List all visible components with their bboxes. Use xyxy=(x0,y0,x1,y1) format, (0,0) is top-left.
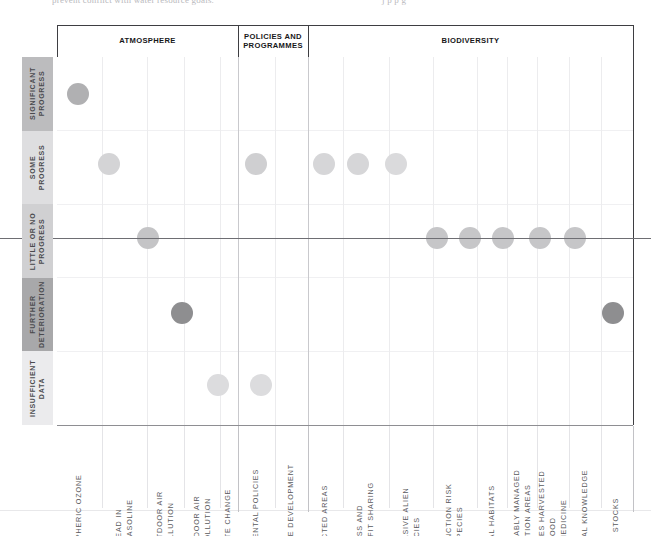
column-label-text: ACCESS ANDBENEFIT SHARING xyxy=(355,482,377,536)
column-label-lead-in-gasoline: LEAD INGASOLINE xyxy=(102,426,147,534)
column-label-species-harvested-for-food-and-medicine: SPECIES HARVESTEDFOR FOODAND MEDICINE xyxy=(537,426,569,534)
col-gridline-1 xyxy=(102,57,103,425)
data-point-sustainable-development xyxy=(250,374,272,396)
row-label-axis: SIGNIFICANTPROGRESSSOMEPROGRESSLITTLE OR… xyxy=(22,57,53,425)
column-label-sustainably-managed-production-areas: SUSTAINABLY MANAGEDPRODUCTION AREAS xyxy=(507,426,537,534)
header-group-atmosphere: ATMOSPHERE xyxy=(57,25,238,57)
row-label-significant-progress: SIGNIFICANTPROGRESS xyxy=(22,57,53,131)
data-point-invasive-alien-species xyxy=(385,153,407,175)
column-label-text: INVASIVE ALIENSPECIES xyxy=(400,488,422,536)
column-label-text: SUSTAINABLE DEVELOPMENT xyxy=(286,464,297,536)
col-gridline-4 xyxy=(220,57,221,425)
row-label-further-deterioration: FURTHERDETERIORATION xyxy=(22,278,53,352)
data-point-fish-stocks xyxy=(602,302,624,324)
column-label-text: NATURAL HABITATS xyxy=(487,485,498,536)
row-label-little-or-no-progress: LITTLE OR NOPROGRESS xyxy=(22,204,53,278)
col-gridline-5 xyxy=(275,57,276,425)
header-group-policies: POLICIES AND PROGRAMMES xyxy=(238,25,308,57)
row-label-text: SIGNIFICANTPROGRESS xyxy=(28,67,47,120)
column-label-protected-areas: PROTECTED AREAS xyxy=(308,426,343,534)
col-group-line-policies-end xyxy=(308,57,309,425)
data-point-indoor-air-pollution xyxy=(171,302,193,324)
column-label-text: SUSTAINABLY MANAGEDPRODUCTION AREAS xyxy=(511,470,533,536)
col-gridline-7 xyxy=(389,57,390,425)
row-label-text: SOMEPROGRESS xyxy=(28,145,47,191)
header-band: ATMOSPHERE POLICIES AND PROGRAMMES BIODI… xyxy=(57,25,633,57)
column-label-text: ENVIRONMENTAL POLICIES xyxy=(251,469,262,536)
row-label-text: LITTLE OR NOPROGRESS xyxy=(28,212,47,270)
column-label-traditional-knowledge: TRADITIONAL KNOWLEDGE xyxy=(569,426,601,534)
column-label-text: OUTDOOR AIRPOLLUTION xyxy=(155,491,177,536)
column-label-text: FISH STOCKS xyxy=(612,498,623,536)
plot-area xyxy=(57,57,633,425)
column-label-climate-change: CLIMATE CHANGE xyxy=(220,426,238,534)
row-label-text: FURTHERDETERIORATION xyxy=(28,281,47,348)
row-label-some-progress: SOMEPROGRESS xyxy=(22,131,53,205)
column-label-axis: STRATOSPHERIC OZONELEAD INGASOLINEOUTDOO… xyxy=(57,426,633,536)
column-label-text: PROTECTED AREAS xyxy=(320,485,331,536)
row-gridline-1 xyxy=(57,130,633,131)
column-label-sustainable-development: SUSTAINABLE DEVELOPMENT xyxy=(275,426,308,534)
column-label-fish-stocks: FISH STOCKS xyxy=(601,426,633,534)
data-point-stratospheric-ozone xyxy=(67,83,89,105)
col-gridline-6 xyxy=(343,57,344,425)
column-label-text: TRADITIONAL KNOWLEDGE xyxy=(580,470,591,536)
column-label-stratospheric-ozone: STRATOSPHERIC OZONE xyxy=(57,426,102,534)
infographic-root: prevent conflict with water resource goa… xyxy=(0,0,651,536)
plot-frame-right-edge xyxy=(633,25,634,425)
column-label-text: EXTINCTION RISKOF SPECIES xyxy=(444,484,466,536)
data-point-environmental-policies xyxy=(245,153,267,175)
data-point-lead-in-gasoline xyxy=(98,153,120,175)
baseline-divider xyxy=(0,238,651,239)
column-label-invasive-alien-species: INVASIVE ALIENSPECIES xyxy=(389,426,433,534)
data-point-protected-areas xyxy=(313,153,335,175)
row-gridline-2 xyxy=(57,204,633,205)
column-label-text: INDOOR AIRPOLLUTION xyxy=(191,496,213,536)
row-label-insufficient-data: INSUFFICIENTDATA xyxy=(22,351,53,425)
column-label-access-and-benefit-sharing: ACCESS ANDBENEFIT SHARING xyxy=(343,426,389,534)
data-point-access-and-benefit-sharing xyxy=(347,153,369,175)
column-label-text: LEAD INGASOLINE xyxy=(114,499,136,536)
column-label-text: STRATOSPHERIC OZONE xyxy=(74,475,85,536)
col-gridline-3 xyxy=(184,57,185,425)
header-group-biodiversity: BIODIVERSITY xyxy=(308,25,633,57)
page-text-fragment-right: j p p g xyxy=(382,0,406,5)
col-group-line-atmosphere-end xyxy=(238,57,239,425)
row-gridline-4 xyxy=(57,351,633,352)
data-point-climate-change xyxy=(207,374,229,396)
page-text-fragment: prevent conflict with water resource goa… xyxy=(52,0,612,9)
row-gridline-3 xyxy=(57,277,633,278)
column-label-outdoor-air-pollution: OUTDOOR AIRPOLLUTION xyxy=(147,426,184,534)
column-label-text: SPECIES HARVESTEDFOR FOODAND MEDICINE xyxy=(537,470,569,536)
column-label-indoor-air-pollution: INDOOR AIRPOLLUTION xyxy=(184,426,220,534)
page-text-fragment-left: prevent conflict with water resource goa… xyxy=(52,0,612,5)
column-label-extinction-risk-of-species: EXTINCTION RISKOF SPECIES xyxy=(433,426,477,534)
column-label-natural-habitats: NATURAL HABITATS xyxy=(477,426,507,534)
row-label-text: INSUFFICIENTDATA xyxy=(28,360,47,417)
col-gridline-13 xyxy=(601,57,602,425)
column-label-text: CLIMATE CHANGE xyxy=(224,489,235,536)
column-label-environmental-policies: ENVIRONMENTAL POLICIES xyxy=(238,426,275,534)
